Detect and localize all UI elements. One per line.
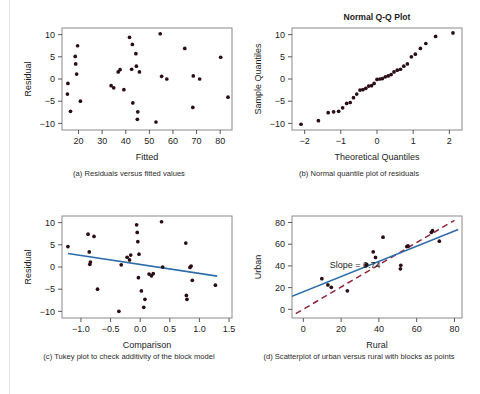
svg-d-xtick-label: 40 (374, 324, 384, 334)
data-point (66, 82, 70, 86)
data-point (399, 67, 403, 71)
svg-c-ytick-label: −5 (45, 284, 55, 294)
data-point (135, 223, 139, 227)
data-point (352, 96, 356, 100)
data-point (136, 240, 140, 244)
svg-a-ylabel: Residual (23, 61, 33, 96)
svg-b-ytick-label: 0 (280, 74, 285, 84)
data-point (329, 285, 333, 289)
svg-a-ytick-label: −5 (45, 96, 55, 106)
data-point (135, 118, 139, 122)
data-point (451, 31, 455, 35)
data-point (151, 272, 155, 276)
data-point (160, 220, 164, 224)
svg-a-xtick-label: 70 (192, 136, 202, 146)
data-point (326, 111, 330, 115)
svg-b-xtick-label: 0 (374, 136, 379, 146)
svg-d-ytick-label: 0 (280, 305, 285, 315)
svg-c-xtick-label: 1.5 (223, 324, 236, 334)
svg-a-xtick-label: 80 (215, 136, 225, 146)
data-point (424, 42, 428, 46)
data-point (88, 262, 92, 266)
data-point (402, 64, 406, 68)
data-point (184, 241, 188, 245)
figure-page: −10−5051020304050607080FittedResidual (a… (0, 0, 480, 394)
svg-c-xtick-label: 1.0 (193, 324, 206, 334)
data-point (128, 258, 132, 262)
svg-a-xtick-label: 30 (97, 136, 107, 146)
data-point (137, 276, 141, 280)
panel-a-caption: (a) Residuals versus fitted values (18, 169, 240, 178)
data-point (337, 110, 341, 114)
data-point (345, 289, 349, 293)
data-point (136, 110, 140, 114)
data-point (345, 102, 349, 106)
svg-c-xtick-label: −0.5 (102, 324, 120, 334)
data-point (135, 231, 139, 235)
svg-a-ytick-label: −10 (40, 119, 55, 129)
data-point (160, 74, 164, 78)
data-point (431, 229, 435, 233)
svg-d-xtick-label: 60 (412, 324, 422, 334)
data-point (299, 122, 303, 126)
data-point (129, 253, 133, 257)
data-point (131, 43, 135, 47)
data-point (185, 294, 189, 298)
panel-a-residuals-vs-fitted: −10−5051020304050607080FittedResidual (18, 8, 240, 168)
svg-b-xtick-label: 2 (447, 136, 452, 146)
data-point (317, 119, 321, 123)
data-point (413, 52, 417, 56)
svg-c-xtick-label: 0.0 (134, 324, 147, 334)
data-point (122, 88, 126, 92)
data-point (79, 99, 83, 103)
svg-c-xtick-label: 0.5 (164, 324, 177, 334)
svg-c-ytick-label: 0 (50, 262, 55, 272)
svg-d-ytick-label: 60 (275, 239, 285, 249)
svg-b-xlabel: Theoretical Quantiles (334, 152, 420, 162)
data-point (131, 101, 135, 105)
panel-c-caption: (c) Tukey plot to check additivity of th… (18, 352, 240, 361)
data-point (191, 106, 195, 110)
svg-c-xtick-label: −1.0 (72, 324, 90, 334)
svg-a-ytick-label: 0 (50, 74, 55, 84)
panel-a-svg: −10−5051020304050607080FittedResidual (18, 8, 240, 168)
panel-c-tukey-plot: −10−50510−1.0−0.50.00.51.01.5ComparisonR… (18, 196, 240, 356)
panel-d-caption: (d) Scatterplot of urban versus rural wi… (248, 352, 470, 361)
data-point (138, 70, 142, 74)
data-point (320, 277, 324, 281)
panel-d-svg: 020406080020406080RuralUrbanSlope = 0.74 (248, 196, 470, 356)
svg-d-xlabel: Rural (366, 340, 388, 350)
data-point (332, 110, 336, 114)
data-point (119, 263, 123, 267)
panel-b-normal-qq-plot: Normal Q-Q Plot−10−50510−2−1012Theoretic… (248, 8, 470, 168)
svg-b-ytick-label: 10 (275, 30, 285, 40)
data-point (118, 68, 122, 72)
svg-a-xtick-label: 40 (121, 136, 131, 146)
data-point (66, 245, 70, 249)
svg-b-xtick-label: −2 (300, 136, 310, 146)
svg-b-xtick-label: 1 (411, 136, 416, 146)
data-point (392, 70, 396, 74)
data-point (154, 120, 158, 124)
data-point (130, 67, 134, 71)
data-point (189, 264, 193, 268)
svg-a-xtick-label: 60 (168, 136, 178, 146)
data-point (371, 250, 375, 254)
svg-c-ytick-label: −10 (40, 307, 55, 317)
data-point (185, 298, 189, 302)
data-point (69, 110, 73, 114)
data-point (73, 55, 77, 59)
data-point (399, 263, 403, 267)
data-point (434, 35, 438, 39)
svg-b-ytick-label: 5 (280, 52, 285, 62)
data-point (389, 73, 393, 77)
data-point (96, 287, 100, 291)
data-point (406, 62, 410, 66)
data-point (406, 244, 410, 248)
data-point (134, 52, 138, 56)
svg-b-ytick-label: −10 (270, 119, 285, 129)
data-point (143, 298, 147, 302)
svg-d-ytick-label: 80 (275, 218, 285, 228)
data-point (191, 74, 195, 78)
svg-c-ytick-label: 5 (50, 240, 55, 250)
